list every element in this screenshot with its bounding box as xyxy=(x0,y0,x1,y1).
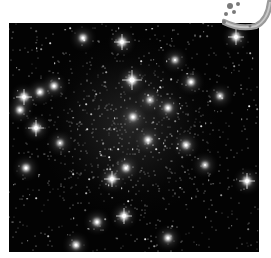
bright-star xyxy=(190,81,193,84)
faint-star xyxy=(99,188,100,189)
faint-star xyxy=(221,97,223,99)
faint-star xyxy=(70,244,71,245)
faint-star xyxy=(104,68,105,69)
faint-star xyxy=(48,156,49,157)
faint-star xyxy=(72,163,73,164)
faint-star xyxy=(172,41,173,42)
faint-star xyxy=(257,230,259,232)
faint-star xyxy=(100,153,102,155)
faint-star xyxy=(72,31,73,32)
faint-star xyxy=(132,131,133,132)
faint-star xyxy=(105,172,106,173)
faint-star xyxy=(116,55,117,56)
faint-star xyxy=(87,81,88,82)
faint-star xyxy=(117,123,118,124)
faint-star xyxy=(142,75,143,76)
faint-star xyxy=(233,156,234,157)
faint-star xyxy=(140,75,141,76)
faint-star xyxy=(178,152,179,153)
faint-star xyxy=(49,43,51,45)
faint-star xyxy=(219,183,220,184)
faint-star xyxy=(120,97,121,98)
faint-star xyxy=(216,92,217,93)
diffraction-spike xyxy=(112,171,113,187)
faint-star xyxy=(46,102,47,103)
faint-star xyxy=(83,66,84,67)
faint-star xyxy=(233,63,234,64)
faint-star xyxy=(138,191,139,192)
faint-star xyxy=(163,199,164,200)
faint-star xyxy=(179,196,180,197)
faint-star xyxy=(135,185,136,186)
faint-star xyxy=(96,141,97,142)
faint-star xyxy=(199,121,200,122)
faint-star xyxy=(69,234,70,235)
faint-star xyxy=(189,43,190,44)
faint-star xyxy=(257,208,258,209)
faint-star xyxy=(187,148,188,149)
faint-star xyxy=(72,204,73,205)
faint-star xyxy=(196,196,197,197)
faint-star xyxy=(241,149,242,150)
faint-star xyxy=(88,228,89,229)
faint-star xyxy=(179,97,181,99)
faint-star xyxy=(93,101,94,102)
faint-star xyxy=(37,156,38,157)
faint-star xyxy=(89,203,90,204)
faint-star xyxy=(107,169,109,171)
faint-star xyxy=(92,57,93,58)
faint-star xyxy=(171,236,172,237)
faint-star xyxy=(33,190,34,191)
faint-star xyxy=(127,154,128,155)
faint-star xyxy=(73,218,75,220)
faint-star xyxy=(72,72,73,73)
faint-star xyxy=(50,70,51,71)
faint-star xyxy=(12,146,13,147)
faint-star xyxy=(255,165,256,166)
faint-star xyxy=(90,64,91,65)
faint-star xyxy=(42,114,43,115)
faint-star xyxy=(55,159,56,160)
faint-star xyxy=(222,213,223,214)
bright-star xyxy=(75,244,78,247)
faint-star xyxy=(113,165,114,166)
faint-star xyxy=(114,118,116,120)
faint-star xyxy=(146,148,147,149)
faint-star xyxy=(236,152,237,153)
faint-star xyxy=(145,213,146,214)
faint-star xyxy=(18,152,19,153)
faint-star xyxy=(239,237,240,238)
faint-star xyxy=(113,128,115,130)
faint-star xyxy=(247,109,249,111)
faint-star xyxy=(195,126,196,127)
faint-star xyxy=(241,130,242,131)
faint-star xyxy=(123,165,124,166)
faint-star xyxy=(200,108,201,109)
faint-star xyxy=(210,174,211,175)
faint-star xyxy=(99,41,100,42)
faint-star xyxy=(151,60,152,61)
faint-star xyxy=(64,54,65,55)
faint-star xyxy=(77,193,78,194)
faint-star xyxy=(174,194,175,195)
faint-star xyxy=(176,181,177,182)
faint-star xyxy=(248,41,249,42)
faint-star xyxy=(99,185,100,186)
faint-star xyxy=(167,127,168,128)
faint-star xyxy=(238,52,239,53)
faint-star xyxy=(129,75,130,76)
faint-star xyxy=(168,171,169,172)
faint-star xyxy=(250,173,251,174)
cluster-glow xyxy=(9,23,259,252)
faint-star xyxy=(161,47,163,49)
faint-star xyxy=(162,119,163,120)
faint-star xyxy=(64,179,65,180)
faint-star xyxy=(207,63,208,64)
faint-star xyxy=(154,118,155,119)
faint-star xyxy=(51,246,52,247)
faint-star xyxy=(136,149,137,150)
faint-star xyxy=(172,94,173,95)
faint-star xyxy=(48,120,49,121)
faint-star xyxy=(154,175,155,176)
faint-star xyxy=(223,66,224,67)
